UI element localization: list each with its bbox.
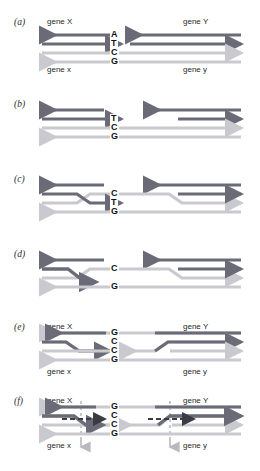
panel-b-base-3: G: [110, 132, 119, 141]
panel-f-strands: [0, 385, 260, 471]
panel-c-strands: [0, 160, 260, 235]
panel-e-base-4: G: [110, 355, 119, 364]
figure-canvas: (a) gene X gene Y gene x gene y: [0, 0, 260, 471]
panel-a-strands: [0, 0, 260, 85]
panel-a: (a) gene X gene Y gene x gene y: [0, 0, 260, 85]
panel-f-base-4: G: [110, 429, 119, 438]
panel-b: (b) T C G: [0, 85, 260, 160]
panel-d-strands: [0, 235, 260, 310]
panel-d: (d) C G: [0, 235, 260, 310]
panel-d-base-1: C: [110, 264, 119, 273]
panel-f: (f) gene X gene Y gene x gene y: [0, 385, 260, 471]
panel-b-strands: [0, 85, 260, 160]
panel-a-base-4: G: [110, 57, 119, 66]
panel-e: (e) gene X gene Y gene x gene y G C C G: [0, 310, 260, 385]
panel-c-base-3: G: [110, 207, 119, 216]
panel-c: (c) C T G: [0, 160, 260, 235]
panel-e-strands: [0, 310, 260, 385]
panel-d-base-2: G: [110, 282, 119, 291]
